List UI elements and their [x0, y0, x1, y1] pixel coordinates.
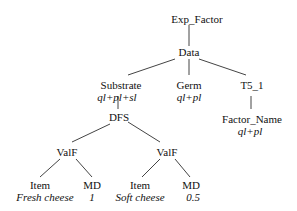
node-valf-1: ValF — [57, 146, 78, 158]
node-md-1: MD — [83, 179, 101, 191]
node-t5-1: T5_1 — [240, 79, 263, 91]
node-substrate-annotation: ql+pl+sl — [97, 91, 136, 103]
node-data: Data — [179, 46, 200, 58]
node-factor-name: Factor_Name — [222, 113, 282, 125]
node-md-2: MD — [182, 179, 200, 191]
node-substrate: Substrate — [101, 79, 142, 91]
node-germ-annotation: ql+pl — [177, 91, 202, 103]
node-germ: Germ — [176, 79, 201, 91]
node-item-1-annotation: Fresh cheese — [16, 191, 73, 203]
node-factor-name-annotation: ql+pl — [238, 125, 263, 137]
node-md-2-annotation: 0.5 — [186, 191, 200, 203]
node-valf-2: ValF — [157, 146, 178, 158]
node-exp-factor: Exp_Factor — [171, 13, 222, 25]
node-item-1: Item — [30, 179, 50, 191]
node-item-2-annotation: Soft cheese — [115, 191, 164, 203]
node-item-2: Item — [130, 179, 150, 191]
node-dfs: DFS — [109, 111, 129, 123]
node-md-1-annotation: 1 — [89, 191, 95, 203]
